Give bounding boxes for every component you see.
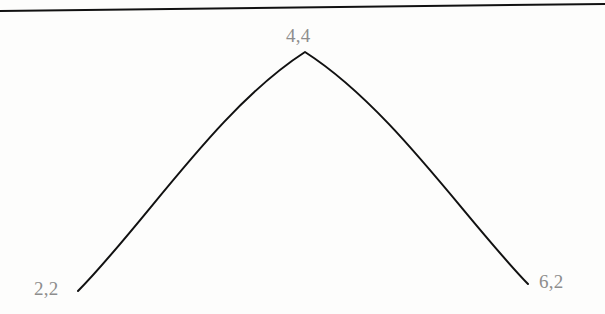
parabola-curve	[78, 52, 528, 291]
point-label-vertex: 4,4	[286, 26, 311, 45]
parabolic-curve-figure: 2,2 4,4 6,2	[0, 0, 605, 314]
top-horizontal-rule	[0, 4, 605, 11]
point-label-end: 6,2	[539, 272, 564, 291]
figure-canvas	[0, 0, 605, 314]
point-label-start: 2,2	[34, 279, 59, 298]
